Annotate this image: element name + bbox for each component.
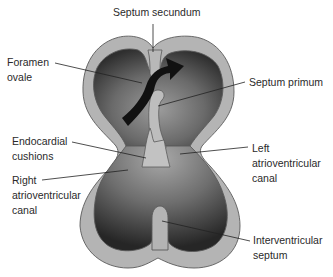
label-endocardial-cushions: Endocardial cushions	[12, 134, 67, 164]
label-right-av-canal: Right atrioventricular canal	[12, 173, 81, 218]
label-left-av-canal: Left atrioventricular canal	[252, 141, 321, 186]
label-interventricular-septum: Interventricular septum	[253, 233, 322, 263]
interventricular-septum-shape	[152, 206, 168, 250]
label-septum-primum: Septum primum	[249, 75, 323, 90]
label-septum-secundum: Septum secundum	[113, 5, 201, 20]
label-foramen-ovale: Foramen ovale	[7, 55, 49, 85]
